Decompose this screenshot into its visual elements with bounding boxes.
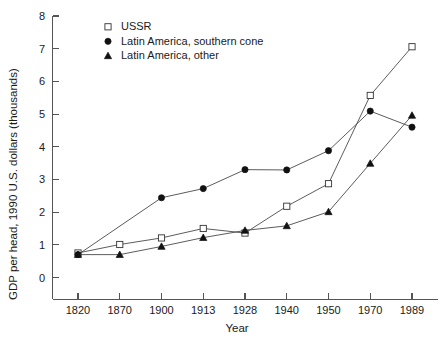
y-tick-label: 4 — [39, 141, 45, 153]
data-series-layer — [74, 44, 415, 258]
y-axis-title: GDP per head, 1990 U.S. dollars (thousan… — [7, 68, 19, 300]
y-axis-ticks: 012345678 — [39, 10, 59, 284]
x-axis-title: Year — [225, 322, 248, 334]
data-point — [283, 222, 290, 228]
data-point — [284, 167, 290, 173]
x-tick-label: 1820 — [66, 304, 90, 316]
data-point — [117, 241, 123, 247]
data-point — [284, 203, 290, 209]
y-tick-label: 1 — [39, 239, 45, 251]
legend-marker-filled-circle — [105, 38, 111, 44]
data-point — [325, 181, 331, 187]
data-point — [158, 195, 164, 201]
y-tick-label: 0 — [39, 272, 45, 284]
data-point — [200, 225, 206, 231]
legend-label: Latin America, southern cone — [121, 35, 263, 47]
gdp-per-head-line-chart: GDP per head, 1990 U.S. dollars (thousan… — [0, 0, 447, 346]
y-tick-label: 3 — [39, 173, 45, 185]
y-tick-label: 7 — [39, 43, 45, 55]
data-point — [409, 124, 415, 130]
series-line — [78, 47, 412, 253]
y-tick-label: 5 — [39, 108, 45, 120]
x-tick-label: 1940 — [275, 304, 299, 316]
x-tick-label: 1950 — [316, 304, 340, 316]
data-point — [409, 44, 415, 50]
y-tick-label: 6 — [39, 75, 45, 87]
x-tick-label: 1900 — [149, 304, 173, 316]
x-axis-ticks: 182018701900191319281940195019701989 — [66, 293, 424, 316]
x-tick-label: 1913 — [191, 304, 215, 316]
x-tick-label: 1928 — [233, 304, 257, 316]
data-point — [408, 112, 415, 118]
data-point — [325, 148, 331, 154]
legend-label: USSR — [121, 20, 152, 32]
chart-figure: GDP per head, 1990 U.S. dollars (thousan… — [0, 0, 447, 346]
legend-label: Latin America, other — [121, 49, 219, 61]
data-point — [242, 167, 248, 173]
legend-marker-filled-triangle — [104, 52, 111, 58]
figure-caption — [0, 337, 447, 346]
chart-legend: USSRLatin America, southern coneLatin Am… — [104, 20, 263, 61]
series-ussr — [75, 44, 415, 256]
data-point — [200, 185, 206, 191]
x-tick-label: 1989 — [400, 304, 424, 316]
x-tick-label: 1870 — [108, 304, 132, 316]
x-tick-label: 1970 — [358, 304, 382, 316]
y-tick-label: 2 — [39, 206, 45, 218]
data-point — [367, 108, 373, 114]
y-tick-label: 8 — [39, 10, 45, 22]
data-point — [367, 92, 373, 98]
data-point — [158, 235, 164, 241]
legend-marker-open-square — [105, 24, 111, 30]
